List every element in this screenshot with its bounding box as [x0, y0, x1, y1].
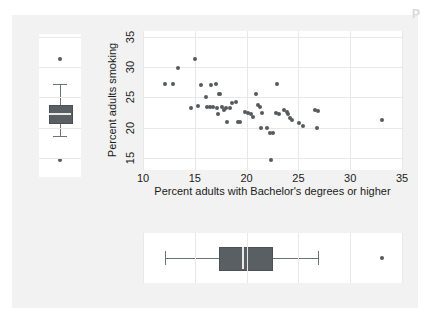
scatter-point: [260, 111, 264, 115]
x-tick-label: 35: [396, 172, 408, 184]
scatter-point: [277, 112, 281, 116]
x-gridline: [143, 31, 144, 170]
y-gridline: [143, 67, 402, 68]
y-gridline: [39, 128, 81, 129]
x-tick-label: 10: [137, 172, 149, 184]
scatter-plot-area: [143, 31, 402, 170]
y-gridline: [143, 97, 402, 98]
x-gridline: [402, 233, 403, 283]
marginal-boxplot-x-panel: [143, 233, 402, 283]
scatter-point: [176, 66, 180, 70]
scatter-point: [251, 115, 255, 119]
scatter-point: [238, 120, 242, 124]
x-gridline: [247, 233, 248, 283]
scatter-point: [215, 106, 219, 110]
scatter-point: [380, 118, 384, 122]
x-axis-label: Percent adults with Bachelor's degrees o…: [143, 185, 402, 197]
x-tick-label: 30: [344, 172, 356, 184]
x-gridline: [350, 233, 351, 283]
y-gridline: [143, 128, 402, 129]
y-tick-label: 25: [124, 91, 136, 103]
scatter-point: [290, 118, 294, 122]
scatter-point: [271, 131, 275, 135]
scatter-point: [163, 82, 167, 86]
whisker-cap-lower-x: [165, 251, 166, 265]
scatter-point: [254, 92, 258, 96]
x-gridline: [402, 31, 403, 170]
y-gridline: [39, 37, 81, 38]
scatter-point: [171, 82, 175, 86]
boxplot-outlier-y: [58, 57, 62, 61]
y-gridline: [39, 158, 81, 159]
y-gridline: [39, 97, 81, 98]
scatter-point: [196, 104, 200, 108]
scatter-point: [189, 106, 193, 110]
y-tick-label: 30: [124, 61, 136, 73]
scatter-point: [199, 83, 203, 87]
x-gridline: [195, 31, 196, 170]
scatter-point: [193, 57, 197, 61]
scatter-point: [316, 109, 320, 113]
x-gridline: [298, 31, 299, 170]
x-gridline: [350, 31, 351, 170]
corner-glyph: P: [412, 8, 420, 20]
y-tick-label: 35: [124, 31, 136, 43]
x-tick-label: 25: [292, 172, 304, 184]
x-tick-label: 20: [240, 172, 252, 184]
scatter-point: [204, 95, 208, 99]
x-tick-label: 15: [189, 172, 201, 184]
y-axis-label: Percent adults smoking: [106, 43, 118, 157]
figure-root: P 1015202530351520253035 Percent adults …: [0, 0, 424, 320]
x-gridline: [195, 233, 196, 283]
median-line-x: [242, 247, 244, 269]
y-gridline: [143, 37, 402, 38]
scatter-point: [228, 106, 232, 110]
scatter-point: [258, 105, 262, 109]
scatter-point: [216, 112, 220, 116]
x-gridline: [247, 31, 248, 170]
median-line-y: [49, 113, 71, 115]
scatter-point: [269, 158, 273, 162]
scatter-point: [259, 126, 263, 130]
y-gridline: [39, 67, 81, 68]
y-tick-label: 20: [124, 122, 136, 134]
marginal-boxplot-y-panel: [39, 34, 81, 177]
scatter-point: [315, 126, 319, 130]
scatter-point: [225, 120, 229, 124]
scatter-point: [209, 83, 213, 87]
scatter-point: [234, 100, 238, 104]
whisker-cap-lower-y: [53, 136, 67, 137]
scatter-point: [218, 92, 222, 96]
x-gridline: [298, 233, 299, 283]
boxplot-outlier-x: [380, 256, 384, 260]
y-tick-label: 15: [124, 152, 136, 164]
scatter-point: [301, 124, 305, 128]
scatter-point: [265, 126, 269, 130]
boxplot-outlier-y: [58, 158, 62, 162]
x-gridline: [143, 233, 144, 283]
whisker-cap-upper-y: [53, 84, 67, 85]
scatter-point: [275, 82, 279, 86]
whisker-cap-upper-x: [318, 251, 319, 265]
scatter-point: [214, 82, 218, 86]
